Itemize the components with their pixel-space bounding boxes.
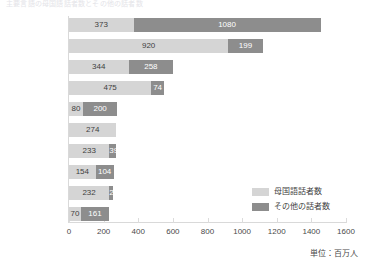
x-axis-label-1600: 1600 xyxy=(326,226,366,237)
bar-segment-other[interactable]: 199 xyxy=(228,39,262,53)
x-axis-tick-1600 xyxy=(346,218,347,223)
bar-segment-other[interactable]: 104 xyxy=(96,165,114,179)
bar-value-label: 475 xyxy=(69,81,151,95)
bar-value-label: 104 xyxy=(96,165,114,179)
bar-stack: 23339 xyxy=(69,144,116,158)
bar-value-label: 161 xyxy=(81,207,109,221)
bar-segment-native[interactable]: 80 xyxy=(69,102,83,116)
bar-stack: 274 xyxy=(69,123,116,137)
bar-value-label: 154 xyxy=(69,165,96,179)
bar-value-label: 70 xyxy=(69,207,81,221)
bar-stack: 920199 xyxy=(69,39,263,53)
bar-segment-other[interactable]: 74 xyxy=(151,81,164,95)
bar-stack: 3731080 xyxy=(69,18,321,32)
bar-stack: 80200 xyxy=(69,102,117,116)
bar-value-label: 232 xyxy=(69,186,109,200)
bar-segment-native[interactable]: 154 xyxy=(69,165,96,179)
bar-stack: 47574 xyxy=(69,81,164,95)
bar-value-label: 25 xyxy=(109,186,113,200)
chart-container: 主要言語の母国語話者数とその他の話者数 英語3731080中国語920199ヒン… xyxy=(0,0,368,268)
chart-legend: 母国語話者数 その他の話者数 xyxy=(252,186,330,216)
bar-segment-native[interactable]: 344 xyxy=(69,60,129,74)
legend-swatch-native-icon xyxy=(252,188,269,196)
bar-stack: 70161 xyxy=(69,207,109,221)
bar-value-label: 233 xyxy=(69,144,109,158)
x-axis-tick-1400 xyxy=(311,218,312,223)
bar-value-label: 258 xyxy=(129,60,174,74)
bar-segment-native[interactable]: 373 xyxy=(69,18,134,32)
bar-segment-other[interactable]: 161 xyxy=(81,207,109,221)
bar-segment-other[interactable]: 25 xyxy=(109,186,113,200)
x-axis-tick-800 xyxy=(208,218,209,223)
bar-value-label: 199 xyxy=(228,39,262,53)
bar-segment-native[interactable]: 475 xyxy=(69,81,151,95)
legend-label-native: 母国語話者数 xyxy=(274,186,322,197)
bar-value-label: 920 xyxy=(69,39,228,53)
bar-segment-other[interactable]: 39 xyxy=(109,144,116,158)
bar-stack: 23225 xyxy=(69,186,113,200)
bar-value-label: 274 xyxy=(69,123,116,137)
bar-segment-native[interactable]: 70 xyxy=(69,207,81,221)
legend-label-other: その他の話者数 xyxy=(274,201,330,212)
legend-swatch-other-icon xyxy=(252,203,269,211)
bar-value-label: 80 xyxy=(69,102,83,116)
legend-item-other[interactable]: その他の話者数 xyxy=(252,201,330,212)
bar-value-label: 74 xyxy=(151,81,164,95)
x-axis-tick-1200 xyxy=(277,218,278,223)
bar-segment-other[interactable]: 1080 xyxy=(134,18,321,32)
x-axis-tick-1000 xyxy=(242,218,243,223)
bar-segment-other[interactable]: 258 xyxy=(129,60,174,74)
bar-segment-native[interactable]: 232 xyxy=(69,186,109,200)
bar-segment-native[interactable]: 920 xyxy=(69,39,228,53)
bar-stack: 344258 xyxy=(69,60,173,74)
bar-value-label: 39 xyxy=(109,144,116,158)
bar-segment-native[interactable]: 274 xyxy=(69,123,116,137)
bar-segment-native[interactable]: 233 xyxy=(69,144,109,158)
bar-stack: 154104 xyxy=(69,165,114,179)
bar-segment-other[interactable]: 200 xyxy=(83,102,118,116)
unit-note: 単位：百万人 xyxy=(310,248,358,259)
x-axis-tick-600 xyxy=(173,218,174,223)
x-axis-tick-400 xyxy=(138,218,139,223)
legend-item-native[interactable]: 母国語話者数 xyxy=(252,186,330,197)
bar-value-label: 200 xyxy=(83,102,118,116)
bar-value-label: 373 xyxy=(69,18,134,32)
bar-value-label: 1080 xyxy=(134,18,321,32)
bar-value-label: 344 xyxy=(69,60,129,74)
plot-area: 英語3731080中国語920199ヒンディー語344258スペイン語47574… xyxy=(0,0,368,268)
